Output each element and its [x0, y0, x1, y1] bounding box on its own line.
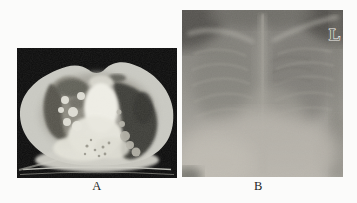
- panel-a-label: A: [17, 179, 177, 193]
- two-panel-medical-figure: L A B: [0, 0, 357, 203]
- xray-panel: L: [182, 10, 343, 177]
- ct-scan-panel: [17, 48, 177, 178]
- ct-axial-chest-image: [17, 48, 177, 178]
- left-side-marker: L: [329, 25, 340, 44]
- panel-b-label: B: [182, 179, 335, 193]
- chest-xray-image: L: [182, 10, 343, 177]
